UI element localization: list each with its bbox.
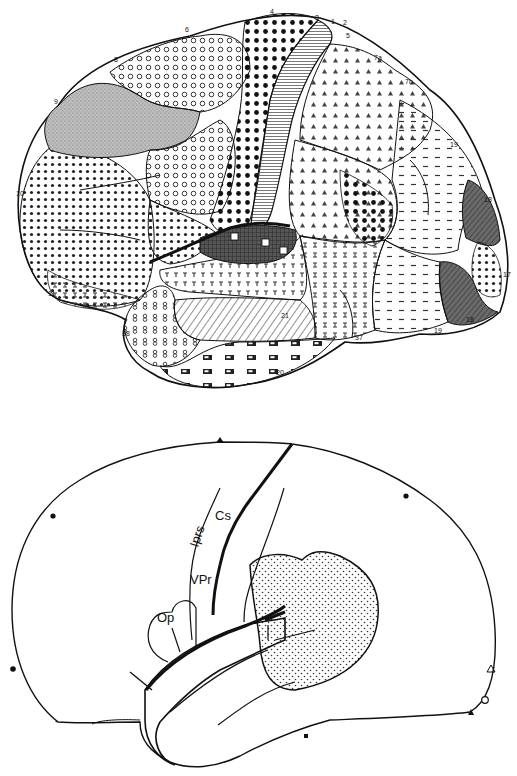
area-label-19-lower: 19 <box>434 327 442 334</box>
area-label-8: 8 <box>114 56 118 63</box>
area-label-7a: 7a <box>374 54 382 61</box>
square-marker <box>304 734 308 738</box>
area-label-6: 6 <box>185 26 189 33</box>
area-label-2: 2 <box>343 19 347 26</box>
area-label-17: 17 <box>503 271 511 278</box>
star-marker: * <box>55 718 58 727</box>
label-op: Op <box>157 610 174 625</box>
area-label-20: 20 <box>276 369 284 376</box>
area-label-3: 3 <box>315 14 319 21</box>
triangle-marker <box>216 437 224 443</box>
area-label-21: 21 <box>281 312 289 319</box>
circle-marker <box>10 666 16 672</box>
circle-marker <box>50 513 55 518</box>
label-cs: Cs <box>215 508 231 523</box>
area-label-5: 5 <box>346 32 350 39</box>
area-label-1: 1 <box>331 18 335 25</box>
area-label-18-lower: 18 <box>466 316 474 323</box>
label-vpr: VPr <box>190 572 212 587</box>
open-circle-marker <box>482 697 489 704</box>
area-label-9: 9 <box>54 98 58 105</box>
circle-marker <box>403 493 408 498</box>
area-label-7b: 7b <box>405 78 413 85</box>
sulci-schematic: * <box>10 437 495 767</box>
area-label-18-upper: 18 <box>484 196 492 203</box>
area-label-4: 4 <box>270 8 274 15</box>
area-label-38: 38 <box>122 330 130 337</box>
area-label-11: 11 <box>48 290 55 297</box>
area-label-37: 37 <box>355 334 363 341</box>
brain-diagram: 1 2 3 4 5 6 7a 7b 8 9 10 11 17 18 18 19 … <box>0 0 517 776</box>
area-label-19-upper: 19 <box>450 141 458 148</box>
area-label-10: 10 <box>16 190 24 197</box>
